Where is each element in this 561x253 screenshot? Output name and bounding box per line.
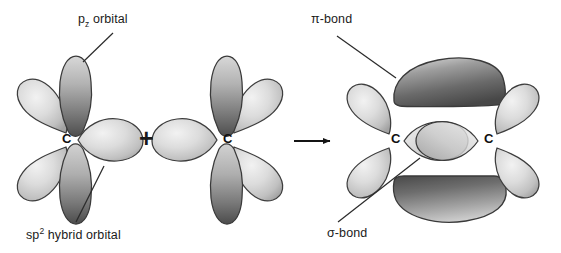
label-pz-main: p — [78, 12, 85, 26]
carbon-label-reactant-left: C — [62, 132, 71, 145]
reactant-left-atom — [17, 56, 143, 224]
sigma-bond-lobe-right — [416, 122, 478, 161]
label-sp2-main: sp — [26, 228, 39, 242]
carbon-label-reactant-right: C — [223, 132, 232, 145]
leader-line-pi — [337, 36, 396, 78]
plus-operator: + — [139, 126, 154, 151]
label-sp2-hybrid-orbital: sp2 hybrid orbital — [26, 226, 121, 242]
label-pz-tail: orbital — [89, 12, 127, 26]
reactant-right-atom — [152, 56, 283, 224]
label-pz-orbital: pz orbital — [78, 12, 128, 29]
label-pi-bond: π-bond — [311, 12, 352, 26]
product-sp2-lobe-lower-left — [347, 148, 391, 198]
sp2-lobe-right — [78, 119, 143, 161]
leader-line-pz — [83, 33, 113, 62]
carbon-label-product-right: C — [484, 132, 493, 145]
sp2-lobe-left — [152, 119, 217, 161]
diagram-canvas: + C C C C pz orbital sp2 hybrid orbital … — [0, 0, 561, 253]
label-sp2-tail: hybrid orbital — [44, 228, 121, 242]
product-sp2-lobe-upper-left — [347, 84, 391, 134]
pi-bond-lobe-upper — [394, 58, 505, 107]
orbital-diagram-svg — [0, 0, 561, 253]
label-sigma-bond: σ-bond — [327, 226, 367, 240]
carbon-label-product-left: C — [391, 132, 400, 145]
pi-bond-lobe-lower — [393, 176, 506, 222]
product-double-bond — [347, 58, 539, 222]
